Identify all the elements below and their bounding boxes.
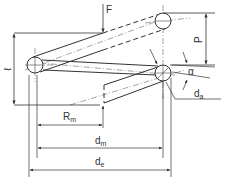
pitch-label: P [193, 36, 204, 43]
outer-diameter-label: de [95, 156, 105, 168]
spring-diagram: F ℓ P α da Rm [0, 0, 229, 184]
force-label: F [106, 4, 112, 15]
front-wire-upper [33, 33, 103, 72]
mean-radius-label: Rm [63, 111, 76, 123]
mean-diameter-label: dm [95, 135, 107, 147]
wire-diameter-label: da [194, 88, 204, 100]
length-label: ℓ [2, 67, 13, 71]
helix-angle-label: α [188, 66, 194, 77]
